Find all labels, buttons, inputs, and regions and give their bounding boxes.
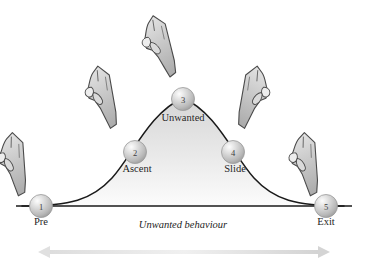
node-3-label: Unwanted — [161, 113, 204, 124]
node-1-number: 1 — [39, 202, 43, 212]
pointing-hand-ascent-icon — [76, 65, 134, 130]
pointing-hand-slide-icon — [221, 65, 279, 130]
diagram-canvas: 1 2 3 4 5 Pre A — [0, 0, 367, 263]
node-5-label: Exit — [317, 217, 335, 228]
node-1[interactable]: 1 — [30, 195, 53, 218]
node-3-number: 3 — [181, 95, 185, 105]
node-5-number: 5 — [324, 202, 328, 212]
node-5[interactable]: 5 — [315, 195, 338, 218]
node-4[interactable]: 4 — [222, 141, 245, 164]
node-2-number: 2 — [133, 148, 137, 158]
curve-caption: Unwanted behaviour — [139, 220, 227, 231]
pointing-hand-exit-icon — [277, 131, 338, 197]
duration-arrow — [38, 246, 330, 258]
node-3[interactable]: 3 — [172, 88, 195, 111]
node-1-label: Pre — [34, 217, 48, 228]
pointing-hand-unwanted-icon — [134, 15, 190, 78]
pointing-hand-pre-icon — [0, 131, 47, 197]
node-4-label: Slide — [224, 164, 246, 175]
node-2[interactable]: 2 — [124, 141, 147, 164]
node-2-label: Ascent — [122, 164, 151, 175]
